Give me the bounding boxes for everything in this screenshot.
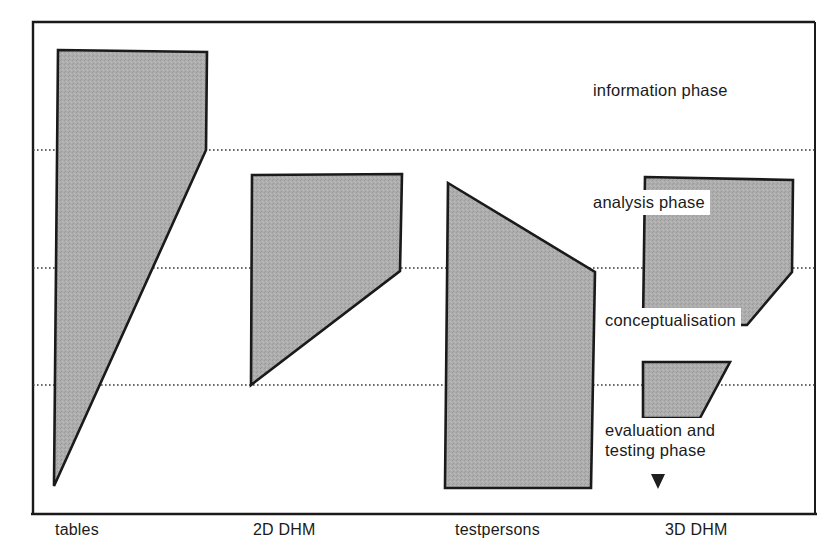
shape-2d-dhm-wedge [251, 174, 402, 385]
axis-label-3d-dhm: 3D DHM [665, 521, 728, 539]
axis-label-testpersons: testpersons [455, 521, 540, 539]
phase-label-analysis: analysis phase [588, 190, 710, 215]
phase-label-information: information phase [588, 78, 733, 103]
shape-tables-wedge [54, 50, 207, 486]
shape-3d-dhm-wedge-lower [643, 362, 730, 418]
phase-label-conceptualisation: conceptualisation [600, 308, 741, 333]
axis-label-tables: tables [55, 521, 99, 539]
axis-label-2d-dhm: 2D DHM [253, 521, 316, 539]
pointer-marker-icon [651, 474, 665, 489]
diagram-canvas: information phase analysis phase concept… [0, 0, 833, 555]
shape-testpersons-wedge [445, 183, 595, 488]
phase-label-evaluation-testing: evaluation and testing phase [600, 418, 720, 463]
